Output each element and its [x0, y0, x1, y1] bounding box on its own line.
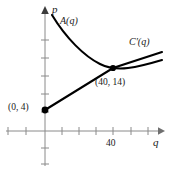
curve-label-average-cost: A(q) [60, 16, 78, 26]
x-axis-arrow [158, 127, 165, 135]
point-intersection [110, 65, 116, 71]
x-axis-label: q [153, 137, 159, 148]
point-label-y-intercept: (0, 4) [8, 103, 29, 113]
curve-label-marginal-cost: C′(q) [129, 37, 150, 47]
y-axis-arrow [41, 6, 49, 14]
graph-figure: p q A(q) C′(q) (40, 14) (0, 4) 40 [0, 0, 170, 172]
point-y-intercept [42, 107, 49, 114]
point-label-intersection: (40, 14) [95, 78, 125, 88]
plot-canvas [0, 0, 170, 172]
y-axis-label: p [52, 4, 58, 15]
x-axis-tick-label-40: 40 [106, 139, 116, 149]
